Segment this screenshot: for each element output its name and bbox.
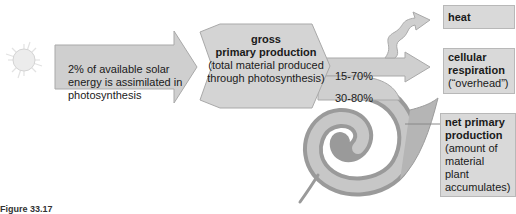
gpp-description: (total material produced through photosy…	[206, 59, 326, 85]
gross-primary-production-label: gross primary production (total material…	[206, 33, 326, 85]
respiration-percentage: 15-70%	[335, 70, 373, 83]
solar-assimilation-text: 2% of available solar energy is assimila…	[68, 63, 188, 102]
sun-icon	[6, 42, 42, 78]
net-production-percentage: 30-80%	[335, 92, 373, 105]
cellular-respiration-note: (“overhead”)	[448, 77, 509, 89]
npp-description: (amount of material plant accumulates)	[445, 142, 510, 193]
net-primary-production-box: net primary production (amount of materi…	[440, 113, 516, 197]
figure-caption: Figure 33.17	[0, 204, 53, 214]
gpp-title-line2: primary production	[206, 46, 326, 59]
energy-band	[318, 12, 430, 100]
heat-label: heat	[448, 11, 510, 24]
gpp-title-line1: gross	[206, 33, 326, 46]
leaf-spiral-icon	[300, 89, 440, 202]
heat-box: heat	[443, 5, 515, 29]
cellular-respiration-label: cellular respiration	[448, 51, 510, 77]
npp-label: net primary production	[445, 116, 511, 142]
cellular-respiration-box: cellular respiration (“overhead”)	[443, 48, 515, 94]
